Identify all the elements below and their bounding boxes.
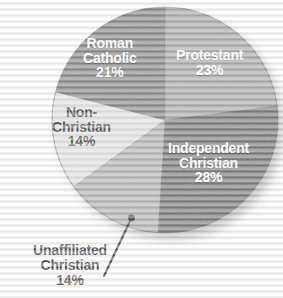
slice-label-non-christian-line2: Christian: [52, 120, 111, 135]
slice-label-independent-christian-percent: 28%: [168, 170, 249, 185]
slice-label-independent-christian: Independent Christian 28%: [168, 141, 249, 185]
slice-label-non-christian: Non- Christian 14%: [52, 105, 111, 149]
scanned-page: Protestant 23% Independent Christian 28%…: [0, 0, 283, 298]
slice-label-unaffiliated-christian-line1: Unaffiliated: [4, 243, 136, 258]
slice-label-unaffiliated-christian: Unaffiliated Christian 14%: [4, 243, 136, 287]
slice-label-unaffiliated-christian-percent: 14%: [4, 273, 136, 288]
slice-label-independent-christian-line2: Christian: [168, 156, 249, 171]
slice-label-protestant: Protestant 23%: [176, 48, 243, 77]
slice-label-roman-catholic: Roman Catholic 21%: [83, 36, 137, 80]
slice-label-independent-christian-line1: Independent: [168, 141, 249, 156]
slice-label-roman-catholic-line1: Roman: [83, 36, 137, 51]
slice-label-roman-catholic-percent: 21%: [83, 65, 137, 80]
slice-label-unaffiliated-christian-line2: Christian: [4, 258, 136, 273]
slice-label-non-christian-line1: Non-: [52, 105, 111, 120]
slice-label-protestant-line1: Protestant: [176, 48, 243, 63]
pie-chart: Protestant 23% Independent Christian 28%…: [0, 0, 283, 298]
slice-label-non-christian-percent: 14%: [52, 134, 111, 149]
slice-label-protestant-percent: 23%: [176, 63, 243, 78]
slice-label-roman-catholic-line2: Catholic: [83, 51, 137, 66]
